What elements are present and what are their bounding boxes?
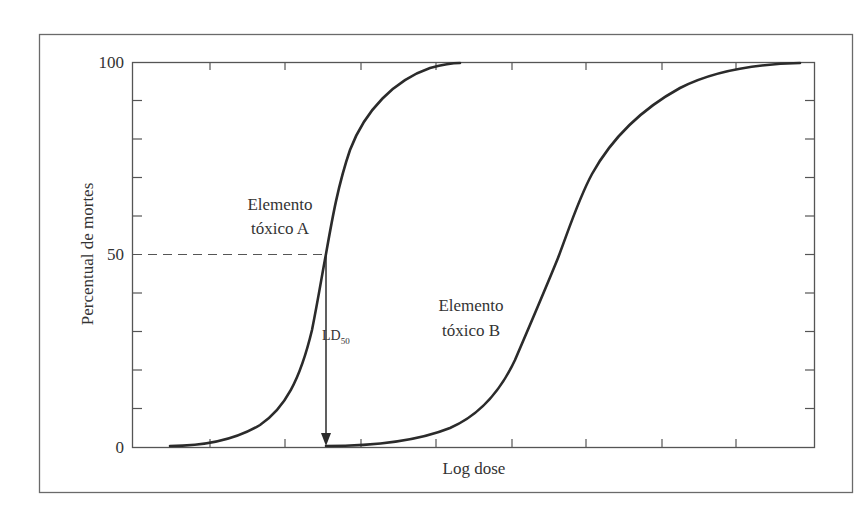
x-axis-title: Log dose bbox=[443, 459, 506, 478]
outer-frame bbox=[40, 35, 853, 493]
x-axis-ticks-top bbox=[210, 62, 736, 70]
x-axis-ticks-bottom bbox=[210, 439, 736, 447]
y-tick-label-0: 0 bbox=[116, 438, 125, 457]
dose-response-chart: 100 50 0 Percentual de mortes Log dose E… bbox=[0, 0, 863, 519]
plot-area bbox=[133, 63, 815, 448]
y-tick-label-50: 50 bbox=[107, 245, 124, 264]
y-tick-label-100: 100 bbox=[99, 53, 125, 72]
ld50-label-main: LD bbox=[322, 328, 341, 343]
y-axis-title: Percentual de mortes bbox=[78, 183, 97, 326]
y-axis-ticks-right bbox=[805, 101, 814, 409]
series-b-label-line2: tóxico B bbox=[442, 321, 500, 340]
ld50-arrow-head-icon bbox=[321, 433, 331, 446]
series-a-label-line2: tóxico A bbox=[251, 219, 310, 238]
curve-element-b bbox=[326, 63, 800, 446]
ld50-label-subscript: 50 bbox=[341, 336, 351, 346]
series-a-label-line1: Elemento bbox=[247, 195, 312, 214]
series-b-label-line1: Elemento bbox=[438, 296, 503, 315]
